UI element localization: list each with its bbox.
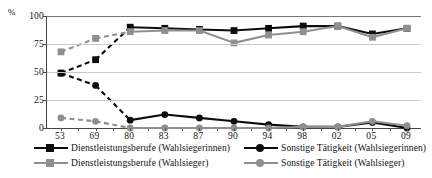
y-tick-75: 75 [20,39,44,49]
legend-item[interactable]: Sonstige Tätigkeit (Wahlsieger) [244,155,426,170]
circle-marker-icon [244,157,278,169]
square-marker-icon [34,157,68,169]
chart-legend: Dienstleistungsberufe (Wahlsiegerinnen)D… [0,140,432,172]
legend-label: Dienstleistungsberufe (Wahlsiegerinnen) [71,143,230,153]
y-tick-25: 25 [20,95,44,105]
legend-column-0: Dienstleistungsberufe (Wahlsiegerinnen)D… [34,140,230,170]
y-tick-100: 100 [20,11,44,21]
legend-label: Sonstige Tätigkeit (Wahlsiegerinnen) [281,143,426,153]
legend-item[interactable]: Dienstleistungsberufe (Wahlsiegerinnen) [34,140,230,155]
legend-column-1: Sonstige Tätigkeit (Wahlsiegerinnen)Sons… [244,140,426,170]
legend-item[interactable]: Dienstleistungsberufe (Wahlsieger) [34,155,230,170]
y-tick-50: 50 [20,67,44,77]
chart-container: % 1007550250 5369808387909498020509 Dien… [0,0,432,178]
square-marker-icon [34,142,68,154]
legend-item[interactable]: Sonstige Tätigkeit (Wahlsiegerinnen) [244,140,426,155]
circle-marker-icon [244,142,278,154]
legend-label: Dienstleistungsberufe (Wahlsieger) [71,158,208,168]
legend-label: Sonstige Tätigkeit (Wahlsieger) [281,158,405,168]
y-tick-0: 0 [20,123,44,133]
